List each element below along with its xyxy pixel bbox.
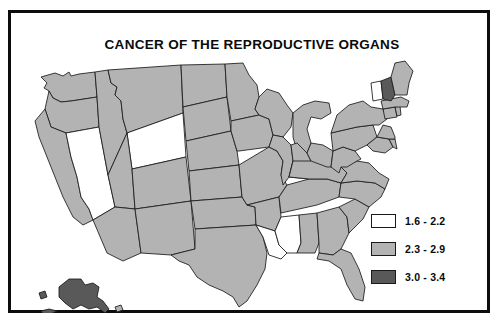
legend-label-high: 3.0 - 3.4 — [405, 271, 445, 283]
state-al[interactable] — [297, 213, 319, 253]
state-me[interactable] — [391, 61, 413, 95]
state-nm[interactable] — [135, 201, 195, 255]
state-mn[interactable] — [225, 63, 259, 121]
legend-label-mid: 2.3 - 2.9 — [405, 243, 445, 255]
state-ks[interactable] — [189, 165, 242, 201]
state-ga[interactable] — [317, 207, 349, 255]
state-ak-aleutians[interactable] — [41, 309, 57, 313]
page-title: CANCER OF THE REPRODUCTIVE ORGANS — [11, 37, 493, 52]
figure-container: CANCER OF THE REPRODUCTIVE ORGANS — [0, 0, 500, 325]
state-ak-islands[interactable] — [39, 291, 47, 299]
legend: 1.6 - 2.2 2.3 - 2.9 3.0 - 3.4 — [371, 211, 481, 295]
legend-item-low[interactable]: 1.6 - 2.2 — [371, 211, 481, 231]
state-hi[interactable] — [115, 305, 123, 312]
state-nj[interactable] — [377, 125, 395, 139]
legend-item-high[interactable]: 3.0 - 3.4 — [371, 267, 481, 287]
legend-item-mid[interactable]: 2.3 - 2.9 — [371, 239, 481, 259]
legend-label-low: 1.6 - 2.2 — [405, 215, 445, 227]
state-ia[interactable] — [231, 115, 273, 151]
state-fl[interactable] — [317, 249, 365, 301]
legend-swatch-high — [371, 270, 396, 284]
figure-frame: CANCER OF THE REPRODUCTIVE ORGANS — [8, 10, 490, 313]
state-ak[interactable] — [59, 279, 109, 313]
legend-swatch-mid — [371, 242, 396, 256]
legend-swatch-low — [371, 214, 396, 228]
state-tn[interactable] — [279, 179, 341, 213]
